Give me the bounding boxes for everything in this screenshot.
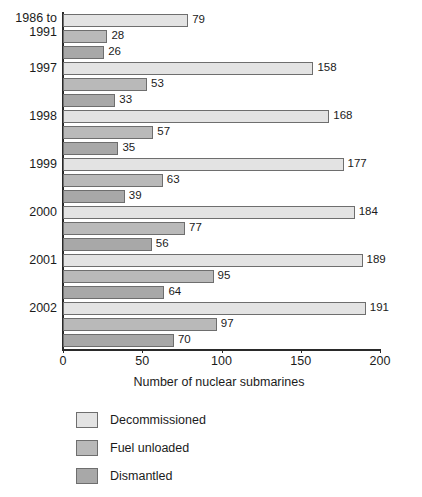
- bar-value-label: 26: [108, 44, 121, 59]
- y-axis-category-label: 2001: [0, 253, 57, 267]
- legend-swatch-icon: [76, 440, 98, 456]
- bar-value-label: 63: [167, 172, 180, 187]
- x-axis-tick-label: 200: [360, 353, 400, 369]
- plot-area: 7928261585333168573517763391847756189956…: [63, 12, 380, 349]
- bar: [63, 318, 217, 331]
- bar-value-label: 35: [122, 140, 135, 155]
- legend-swatch-icon: [76, 468, 98, 484]
- bar: [63, 94, 115, 107]
- bar: [63, 286, 164, 299]
- y-axis-category-label: 2000: [0, 205, 57, 219]
- y-axis-category-label: 2002: [0, 301, 57, 315]
- bar-value-label: 56: [156, 236, 169, 251]
- bar-value-label: 33: [119, 92, 132, 107]
- bar: [63, 334, 174, 347]
- bar-chart: 1986 to 1991199719981999200020012002 792…: [0, 0, 422, 497]
- bar-value-label: 64: [168, 284, 181, 299]
- bar: [63, 62, 313, 75]
- bar: [63, 110, 329, 123]
- legend-item[interactable]: Decommissioned: [76, 406, 206, 434]
- legend-item[interactable]: Fuel unloaded: [76, 434, 206, 462]
- bar-value-label: 189: [367, 252, 386, 267]
- bar-value-label: 191: [370, 300, 389, 315]
- y-axis-category-labels: 1986 to 1991199719981999200020012002: [0, 0, 57, 360]
- x-axis-tick-label: 0: [43, 353, 83, 369]
- bar-value-label: 177: [348, 156, 367, 171]
- bar: [63, 142, 118, 155]
- bar: [63, 158, 344, 171]
- x-axis-tick-label: 50: [122, 353, 162, 369]
- bar: [63, 254, 363, 267]
- bar: [63, 30, 107, 43]
- bar-value-label: 28: [111, 28, 124, 43]
- bar: [63, 46, 104, 59]
- bar-value-label: 39: [129, 188, 142, 203]
- bar: [63, 302, 366, 315]
- x-axis-tick-label: 150: [281, 353, 321, 369]
- bar-value-label: 53: [151, 76, 164, 91]
- y-axis-category-label: 1986 to 1991: [0, 11, 57, 39]
- legend-swatch-icon: [76, 412, 98, 428]
- bar: [63, 14, 188, 27]
- bar: [63, 126, 153, 139]
- bar-value-label: 79: [192, 12, 205, 27]
- bar: [63, 222, 185, 235]
- bar-value-label: 77: [189, 220, 202, 235]
- bar-value-label: 168: [333, 108, 352, 123]
- bar-value-label: 95: [218, 268, 231, 283]
- legend-item-label: Fuel unloaded: [110, 441, 189, 455]
- legend-item[interactable]: Dismantled: [76, 462, 206, 490]
- bar: [63, 78, 147, 91]
- x-axis-title: Number of nuclear submarines: [0, 375, 422, 389]
- bar-value-label: 70: [178, 332, 191, 347]
- chart-legend: DecommissionedFuel unloadedDismantled: [76, 406, 206, 490]
- bar-value-label: 158: [317, 60, 336, 75]
- y-axis-category-label: 1999: [0, 157, 57, 171]
- y-axis-category-label: 1997: [0, 61, 57, 75]
- bar: [63, 206, 355, 219]
- x-axis-tick-label: 100: [202, 353, 242, 369]
- bar: [63, 174, 163, 187]
- legend-item-label: Dismantled: [110, 469, 173, 483]
- bar: [63, 270, 214, 283]
- legend-item-label: Decommissioned: [110, 413, 206, 427]
- bar: [63, 238, 152, 251]
- y-axis-category-label: 1998: [0, 109, 57, 123]
- x-axis-title-text: Number of nuclear submarines: [134, 375, 305, 389]
- bar-value-label: 97: [221, 316, 234, 331]
- bar: [63, 190, 125, 203]
- bar-value-label: 184: [359, 204, 378, 219]
- bar-value-label: 57: [157, 124, 170, 139]
